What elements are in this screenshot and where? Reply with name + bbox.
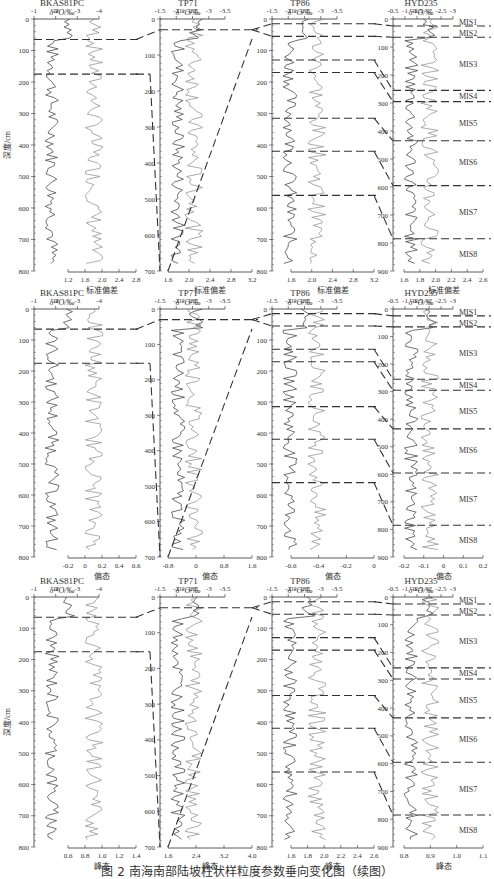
correlation-line (168, 39, 252, 271)
y-tick-label: 100 (378, 44, 389, 52)
y-tick-label: 300 (19, 399, 30, 407)
correlation-line (136, 320, 160, 330)
x-tick-label: -2.5 (435, 585, 447, 593)
d18o-curve (45, 19, 72, 263)
x-tick-label: -3 (318, 297, 324, 305)
x-tick-label: -1 (31, 7, 37, 15)
x-tick-label: -4 (96, 585, 102, 593)
y-tick-label: 400 (19, 430, 30, 438)
x-tick-label: 0.6 (132, 562, 141, 570)
y-tick-label: 100 (19, 625, 30, 633)
x-tick-label: -2 (426, 7, 432, 15)
parameter-curve (185, 597, 203, 840)
x-tick-label: 1.1 (479, 852, 488, 860)
x-tick-label: 1.6 (287, 276, 296, 284)
y-tick-label: 600 (257, 205, 268, 213)
parameter-curve (308, 309, 326, 550)
y-tick-label: 0 (385, 306, 389, 314)
panel-tp71-1: TP71δ¹⁸O/‰-1.5-2-2.5-3-3.501002003004005… (145, 0, 259, 295)
x-tick-label: -0.1 (418, 562, 430, 570)
x-tick-label: -2.5 (435, 297, 447, 305)
parameter-curve (185, 309, 203, 550)
y-tick-label: 800 (19, 844, 30, 852)
x-tick-label: 2.8 (349, 276, 358, 284)
y-tick-label: 200 (257, 656, 268, 664)
y-tick-label: 500 (145, 772, 156, 780)
y-tick-label: 700 (19, 523, 30, 531)
correlation-line (374, 326, 393, 327)
parameter-curve (308, 597, 326, 840)
x-tick-label: 0.8 (220, 562, 229, 570)
y-tick-label: 800 (257, 268, 268, 276)
y-tick-label: 600 (378, 184, 389, 192)
y-tick-label: 700 (145, 554, 156, 562)
x-tick-label: -2 (173, 7, 179, 15)
y-tick-label: 400 (257, 142, 268, 150)
y-tick-label: 200 (19, 79, 30, 87)
y-tick-label: 100 (19, 47, 30, 55)
mis-label: MIS7 (459, 785, 477, 794)
x-tick-label: 2.0 (431, 276, 440, 284)
x-tick-label: 1.6 (248, 562, 257, 570)
correlation-line (252, 320, 272, 326)
x-tick-label: 2.4 (115, 276, 124, 284)
mis-label: MIS7 (459, 208, 477, 217)
panel-tp86-2: TP86δ¹⁸O/‰-1.5-2-2.5-3-3.501002003004005… (257, 288, 381, 581)
x-tick-label: -2.5 (187, 297, 199, 305)
mis-label: MIS5 (459, 696, 477, 705)
y-tick-label: 100 (257, 47, 268, 55)
x-tick-label: -2.5 (435, 7, 447, 15)
x-tick-label: -2.5 (299, 585, 311, 593)
x-tick-label: 1.6 (81, 276, 90, 284)
x-tick-label: -3 (206, 585, 212, 593)
y-tick-label: 100 (19, 337, 30, 345)
y-tick-label: 200 (145, 376, 156, 384)
y-tick-label: 800 (19, 554, 30, 562)
y-tick-label: 600 (257, 492, 268, 500)
x-axis-label: 标准偏差 (317, 285, 349, 295)
y-tick-label: 100 (257, 625, 268, 633)
x-tick-label: -3 (206, 7, 212, 15)
x-tick-label: 2.2 (336, 852, 345, 860)
y-tick-label: 300 (19, 110, 30, 118)
mis-label: MIS4 (459, 669, 477, 678)
x-tick-label: 1.6 (287, 852, 296, 860)
x-tick-label: 2.4 (328, 276, 337, 284)
x-tick-label: -3 (450, 297, 456, 305)
y-tick-label: 100 (378, 621, 389, 629)
x-tick-label: 4.0 (248, 852, 257, 860)
x-tick-label: -1.5 (411, 7, 423, 15)
y-tick-label: 100 (145, 52, 156, 60)
y-tick-label: 300 (257, 687, 268, 695)
mis-label: MIS1 (459, 596, 477, 605)
x-tick-label: 0 (442, 562, 446, 570)
correlation-line (374, 24, 393, 26)
x-tick-label: -3 (318, 7, 324, 15)
correlation-line (252, 602, 272, 608)
y-tick-label: 800 (19, 268, 30, 276)
mis-label: MIS2 (459, 29, 477, 38)
mis-label: MIS8 (459, 536, 477, 545)
y-tick-label: 700 (378, 498, 389, 506)
d18o-curve (283, 309, 309, 550)
y-tick-label: 700 (19, 236, 30, 244)
x-tick-label: -3.5 (331, 585, 343, 593)
x-axis-label: 偏态 (94, 571, 110, 581)
x-tick-label: -2 (285, 585, 291, 593)
y-tick-label: 200 (145, 88, 156, 96)
x-axis-label: 偏态 (436, 571, 452, 581)
correlation-line (150, 363, 160, 557)
x-tick-label: -2 (53, 7, 59, 15)
y-tick-label: 700 (19, 812, 30, 820)
x-tick-label: 1.6 (400, 276, 409, 284)
x-tick-label: -4 (96, 297, 102, 305)
x-tick-label: -3.5 (219, 297, 231, 305)
y-tick-label: 200 (257, 368, 268, 376)
y-tick-label: 0 (152, 594, 156, 602)
x-tick-label: 0.4 (115, 562, 124, 570)
correlation-line (374, 314, 393, 316)
y-tick-label: 0 (264, 306, 268, 314)
x-tick-label: 0.2 (479, 562, 488, 570)
y-tick-label: 700 (378, 788, 389, 796)
y-tick-label: 700 (257, 523, 268, 531)
